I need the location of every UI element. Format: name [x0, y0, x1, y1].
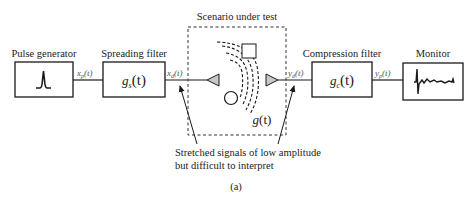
spreading-filter-block: gs(t) — [103, 62, 165, 97]
annotation-line-1: Stretched signals of low amplitude — [175, 147, 321, 158]
monitor-label: Monitor — [416, 48, 451, 59]
pulse-generator-block — [15, 62, 73, 97]
annotation-line-2: but difficult to interpret — [175, 160, 274, 171]
signal-yd: yd(t) — [287, 68, 304, 79]
spreading-filter-function: gs(t) — [122, 72, 146, 90]
scenario-label: Scenario under test — [197, 11, 278, 22]
monitor-block — [403, 63, 463, 100]
target-square-icon — [242, 44, 256, 58]
diagram-canvas: Pulse generator Spreading filter Scenari… — [0, 0, 472, 200]
compression-filter-function: gc(t) — [330, 72, 354, 90]
pulse-generator-label: Pulse generator — [11, 48, 77, 59]
figure-label: (a) — [230, 181, 242, 193]
signal-yp: yp(t) — [374, 68, 391, 79]
signal-xp: xp(t) — [76, 68, 93, 79]
transmit-antenna-icon — [207, 74, 219, 86]
compression-filter-label: Compression filter — [303, 48, 382, 59]
signal-xd: xd(t) — [166, 68, 183, 79]
target-circle-icon — [225, 92, 238, 105]
compression-filter-block: gc(t) — [312, 62, 372, 97]
spreading-filter-label: Spreading filter — [101, 48, 167, 59]
scenario-function: g(t) — [253, 112, 272, 127]
receive-antenna-icon — [266, 74, 278, 86]
